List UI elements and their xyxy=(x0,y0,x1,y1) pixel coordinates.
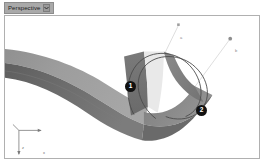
viewport-tab-bar: Perspective xyxy=(0,0,266,16)
tab-perspective[interactable]: Perspective xyxy=(4,2,54,14)
chevron-down-icon[interactable] xyxy=(43,4,50,12)
endpoint-label-a: a xyxy=(180,36,182,40)
annotation-badge-1[interactable]: 1 xyxy=(125,81,136,92)
axis-y-arrow xyxy=(17,151,20,155)
cad-viewport-window: Perspective xyxy=(0,0,266,165)
endpoint-markers xyxy=(177,23,232,40)
axis-z-line xyxy=(13,124,19,130)
axis-label-z: z xyxy=(22,146,24,150)
axis-x-arrow xyxy=(38,129,42,132)
endpoint-marker-a xyxy=(177,23,180,26)
annotation-badge-2[interactable]: 2 xyxy=(196,105,207,116)
axis-label-x: x xyxy=(43,151,45,155)
axis-gizmo[interactable] xyxy=(13,124,42,155)
endpoint-marker-b xyxy=(228,37,232,41)
tab-perspective-label: Perspective xyxy=(8,5,40,11)
perspective-viewport[interactable]: 1 2 a b x y z xyxy=(4,15,260,159)
twisted-surface[interactable] xyxy=(5,49,212,141)
endpoint-label-b: b xyxy=(235,49,237,53)
